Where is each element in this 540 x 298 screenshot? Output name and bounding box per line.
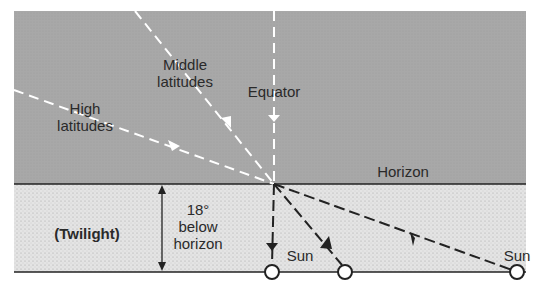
sun-icon xyxy=(265,265,279,279)
sun-icon xyxy=(338,265,352,279)
label-line: below xyxy=(168,218,228,235)
sun-label: Sun xyxy=(280,247,320,264)
depth-label: 18° below horizon xyxy=(168,201,228,252)
label-line: Middle xyxy=(150,56,220,73)
middle-latitudes-label: Middle latitudes xyxy=(150,56,220,90)
high-latitudes-label: High latitudes xyxy=(50,100,120,134)
sun-label: Sun xyxy=(497,247,537,264)
twilight-label: (Twilight) xyxy=(44,225,130,242)
label-line: latitudes xyxy=(50,117,120,134)
equator-label: Equator xyxy=(243,83,305,100)
sun-icon xyxy=(510,265,524,279)
label-line: High xyxy=(50,100,120,117)
label-line: horizon xyxy=(168,235,228,252)
label-line: 18° xyxy=(168,201,228,218)
horizon-label: Horizon xyxy=(368,163,438,180)
twilight-diagram xyxy=(0,0,540,298)
label-line: latitudes xyxy=(150,73,220,90)
